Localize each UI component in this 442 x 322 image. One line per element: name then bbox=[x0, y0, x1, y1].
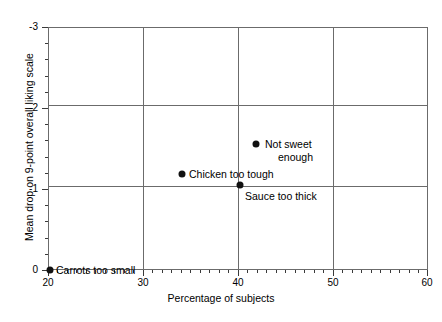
plot-area bbox=[48, 27, 428, 270]
data-label-sauce: Sauce too thick bbox=[245, 190, 317, 202]
xticklabel-40: 40 bbox=[218, 277, 258, 288]
xtick-minor bbox=[371, 270, 372, 273]
xtick-minor bbox=[323, 270, 324, 273]
xtick-minor bbox=[162, 270, 163, 273]
data-point-carrots bbox=[47, 267, 54, 274]
xtick-minor bbox=[399, 270, 400, 273]
gridline-y-minus2 bbox=[49, 105, 427, 106]
data-point-sauce bbox=[237, 182, 244, 189]
gridline-x-40 bbox=[238, 28, 239, 269]
ytick-minor bbox=[45, 140, 48, 141]
xtick-60 bbox=[427, 270, 428, 276]
scatter-chart: 20 30 40 50 60 0 -1 -2 -3 Percentage of … bbox=[0, 0, 442, 322]
xticklabel-50: 50 bbox=[313, 277, 353, 288]
gridline-x-30 bbox=[143, 28, 144, 269]
xticklabel-20: 20 bbox=[28, 277, 68, 288]
xtick-minor bbox=[219, 270, 220, 273]
data-label-not-sweet-line1: Not sweet bbox=[265, 138, 312, 150]
ytick-minor bbox=[45, 92, 48, 93]
xtick-40 bbox=[238, 270, 239, 276]
x-axis-label: Percentage of subjects bbox=[0, 292, 442, 304]
xtick-minor bbox=[390, 270, 391, 273]
xtick-minor bbox=[361, 270, 362, 273]
xtick-minor bbox=[295, 270, 296, 273]
xtick-minor bbox=[257, 270, 258, 273]
data-label-chicken: Chicken too tough bbox=[189, 168, 274, 180]
xtick-minor bbox=[352, 270, 353, 273]
xtick-minor bbox=[181, 270, 182, 273]
gridline-x-50 bbox=[333, 28, 334, 269]
ytick-minor bbox=[45, 43, 48, 44]
ytick-minor bbox=[45, 221, 48, 222]
xticklabel-30: 30 bbox=[123, 277, 163, 288]
data-point-not-sweet bbox=[253, 141, 260, 148]
ytick-minor bbox=[45, 173, 48, 174]
xtick-minor bbox=[418, 270, 419, 273]
ytick-minor bbox=[45, 157, 48, 158]
ytick-minor bbox=[45, 254, 48, 255]
data-point-chicken bbox=[179, 171, 186, 178]
xtick-minor bbox=[380, 270, 381, 273]
xtick-30 bbox=[143, 270, 144, 276]
xtick-minor bbox=[209, 270, 210, 273]
ytick-minor bbox=[45, 124, 48, 125]
data-label-carrots: Carrots too small bbox=[56, 264, 135, 276]
xtick-minor bbox=[190, 270, 191, 273]
y-axis-label: Mean drop on 9-point overall liking scal… bbox=[23, 22, 35, 272]
xtick-minor bbox=[409, 270, 410, 273]
data-label-not-sweet-line2: enough bbox=[278, 151, 313, 163]
xtick-minor bbox=[304, 270, 305, 273]
xtick-minor bbox=[247, 270, 248, 273]
ytick-minus3 bbox=[42, 27, 48, 28]
ytick-minor bbox=[45, 76, 48, 77]
xtick-minor bbox=[342, 270, 343, 273]
xtick-minor bbox=[314, 270, 315, 273]
xtick-minor bbox=[228, 270, 229, 273]
xticklabel-60: 60 bbox=[407, 277, 442, 288]
xtick-minor bbox=[276, 270, 277, 273]
xtick-minor bbox=[200, 270, 201, 273]
xtick-50 bbox=[333, 270, 334, 276]
xtick-minor bbox=[171, 270, 172, 273]
xtick-minor bbox=[152, 270, 153, 273]
ytick-minor bbox=[45, 238, 48, 239]
ytick-minor bbox=[45, 205, 48, 206]
xtick-minor bbox=[285, 270, 286, 273]
ytick-minor bbox=[45, 59, 48, 60]
ytick-minus1 bbox=[42, 189, 48, 190]
xtick-minor bbox=[266, 270, 267, 273]
ytick-minus2 bbox=[42, 108, 48, 109]
